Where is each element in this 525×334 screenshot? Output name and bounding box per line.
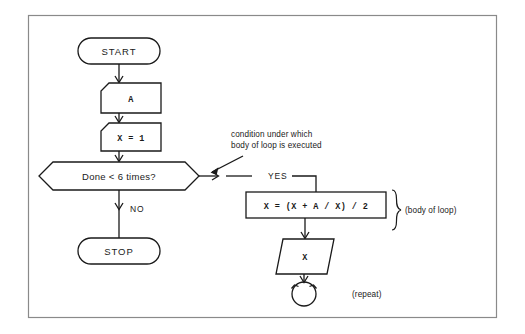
edge-yes-label: YES [268, 171, 287, 181]
edge-no-branch: NO [115, 190, 144, 238]
connector-input-to-init [115, 113, 123, 123]
compute-label: X = (X + A / X) / 2 [264, 202, 369, 212]
flowchart-canvas: START A X = 1 Done < [0, 0, 525, 334]
repeat-label: (repeat) [352, 290, 382, 299]
node-start[interactable]: START [78, 38, 160, 64]
annotation-condition-note: condition under which body of loop is ex… [211, 130, 323, 175]
condition-note-line1: condition under which [231, 130, 313, 139]
node-init-x[interactable]: X = 1 [101, 123, 161, 151]
connector-start-to-input [115, 64, 123, 83]
body-of-loop-brace [392, 190, 401, 230]
connector-compute-to-output [301, 218, 309, 239]
condition-note-line2: body of loop is executed [231, 141, 322, 150]
node-input-a[interactable]: A [101, 83, 161, 113]
output-x-label: X [302, 253, 308, 263]
start-label: START [102, 46, 137, 57]
edge-no-label: NO [130, 204, 144, 214]
node-output-x[interactable]: X [276, 239, 334, 274]
body-of-loop-label: (body of loop) [405, 206, 457, 215]
decision-label: Done < 6 times? [82, 171, 156, 182]
condition-note-leader-arrowhead [211, 167, 219, 174]
flowchart-page: START A X = 1 Done < [0, 0, 525, 334]
input-a-label: A [128, 95, 134, 105]
connector-output-to-repeat [300, 274, 308, 283]
node-repeat-symbol[interactable] [292, 282, 317, 306]
node-decision[interactable]: Done < 6 times? [39, 162, 199, 190]
node-stop[interactable]: STOP [78, 238, 160, 264]
stop-label: STOP [104, 246, 133, 257]
connector-init-to-decision [115, 151, 123, 162]
init-x-label: X = 1 [117, 134, 145, 144]
annotation-body-of-loop: (body of loop) [392, 190, 457, 230]
node-compute[interactable]: X = (X + A / X) / 2 [246, 192, 386, 218]
